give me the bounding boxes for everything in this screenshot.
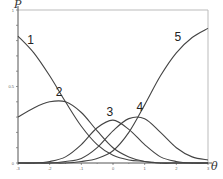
curve-4 [18, 117, 208, 163]
y-tick-label: 0.5 [8, 84, 14, 89]
curve-label-1: 1 [27, 33, 34, 47]
x-axis-label: θ [211, 160, 218, 173]
item-characteristic-chart: 00.51 -3-2-10123 12345 P θ [0, 0, 223, 179]
curve-label-5: 5 [175, 30, 182, 44]
y-ticks: 00.51 [8, 8, 18, 166]
curve-label-3: 3 [106, 105, 113, 119]
x-tick-label: 1 [144, 166, 147, 171]
x-tick-label: 3 [207, 166, 210, 171]
curve-labels: 12345 [27, 30, 181, 119]
curve-label-2: 2 [56, 85, 63, 99]
y-tick-label: 0 [12, 161, 15, 166]
x-tick-label: -3 [16, 166, 20, 171]
x-tick-label: 2 [175, 166, 178, 171]
curve-label-4: 4 [137, 100, 144, 114]
curve-5 [18, 28, 208, 163]
x-tick-label: -1 [80, 166, 84, 171]
x-ticks: -3-2-10123 [16, 163, 210, 171]
x-tick-label: -2 [48, 166, 52, 171]
curve-1 [18, 36, 208, 163]
y-axis-label: P [13, 0, 22, 11]
curve-3 [18, 120, 208, 163]
x-tick-label: 0 [112, 166, 115, 171]
axes [18, 6, 212, 163]
curves [18, 28, 208, 163]
